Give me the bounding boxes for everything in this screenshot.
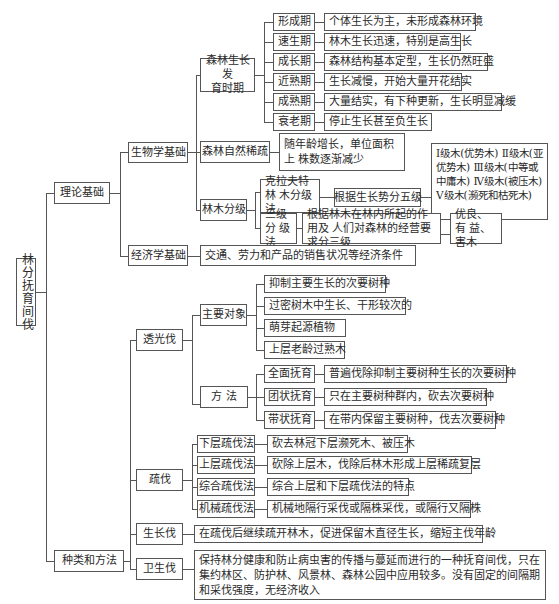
thinning-4: 机械疏伐法 xyxy=(197,500,255,518)
stage-4-desc: 生长减慢，开始大量开花结实 xyxy=(324,73,462,91)
stage-3: 成长期 xyxy=(273,53,315,71)
node-increment-felling: 生长伐 xyxy=(136,523,183,545)
connector xyxy=(315,62,324,63)
connector xyxy=(192,404,200,405)
node-economics-basis: 经济学基础 xyxy=(128,245,188,266)
connector xyxy=(256,306,264,307)
node-types-methods: 种类和方法 xyxy=(54,550,124,572)
connector xyxy=(46,561,54,562)
connector xyxy=(315,374,324,375)
connector xyxy=(247,315,256,316)
stage-4: 近熟期 xyxy=(273,73,315,91)
method-3: 带状抚育 xyxy=(264,411,315,429)
sanitation-felling-desc: 保持林分健康和防止病虫害的传播与蔓延而进行的一种抚育间伐，只在集约林区、防护林、… xyxy=(194,550,546,600)
growth-periods-label: 森林生长发育时期 xyxy=(203,54,252,96)
connector xyxy=(264,62,273,63)
connector xyxy=(255,192,256,228)
connector xyxy=(256,284,257,350)
stage-5: 成熟期 xyxy=(273,93,315,111)
connector xyxy=(320,197,334,198)
connector xyxy=(248,397,256,398)
root-node: 林分抚育间伐 xyxy=(16,258,36,326)
stage-1: 形成期 xyxy=(273,13,315,31)
thinning-3: 综合疏伐法 xyxy=(197,478,255,496)
stage-1-desc: 个体生长为主，未形成森林环境 xyxy=(324,13,476,31)
connector xyxy=(264,22,273,23)
stage-6-desc: 停止生长甚至负生长 xyxy=(324,113,432,131)
thinning-2: 上层疏伐法 xyxy=(197,456,255,474)
connector xyxy=(192,315,200,316)
target-3: 萌芽起源植物 xyxy=(264,319,346,337)
connector xyxy=(188,152,196,153)
node-release-cutting: 透光伐 xyxy=(136,329,183,351)
thinning-1-desc: 砍去林冠下层濒死木、被压木 xyxy=(267,435,408,453)
connector xyxy=(192,315,193,404)
node-self-thinning: 森林自然稀疏 xyxy=(200,141,270,163)
connector xyxy=(188,256,200,257)
three-class-method: 三级分 级法 xyxy=(260,213,297,244)
node-growth-periods: 森林生长发育时期 xyxy=(200,58,255,92)
connector xyxy=(255,487,267,488)
method-3-desc: 在带内保留主要树种，伐去次要树种 xyxy=(324,411,496,429)
target-2: 过密树木中生长、干形较次的 xyxy=(264,297,406,315)
method-1: 全面抚育 xyxy=(264,365,315,383)
method-2: 团状抚育 xyxy=(264,388,315,406)
thinning-4-desc: 机械地隔行采伐或隔株采伐，或隔行又隔株 xyxy=(267,500,471,518)
connector xyxy=(315,420,324,421)
connector xyxy=(256,284,264,285)
node-biology-basis: 生物学基础 xyxy=(128,142,188,163)
connector xyxy=(315,122,324,123)
connector xyxy=(255,75,264,76)
self-thinning-desc: 随年龄增长，单位面积上 株数逐渐减少 xyxy=(279,133,405,171)
connector xyxy=(270,152,279,153)
three-class-grades: 优良、有 益、害木 xyxy=(450,213,502,244)
three-class-basis: 根据林木在林内所起的作用及 人们对森林的经营要求分三级 xyxy=(302,213,441,244)
connector xyxy=(264,42,273,43)
connector xyxy=(183,569,194,570)
stage-3-desc: 森林结构基本定型，生长仍然旺盛 xyxy=(324,53,488,71)
connector xyxy=(264,122,273,123)
connector xyxy=(256,420,264,421)
node-theory-basis: 理论基础 xyxy=(54,182,110,204)
connector xyxy=(255,465,267,466)
thinning-2-desc: 砍除上层木，伐除后林木形成上层稀疏复层 xyxy=(267,456,472,474)
connector xyxy=(120,152,128,153)
connector xyxy=(315,397,324,398)
connector xyxy=(183,340,192,341)
connector xyxy=(264,22,265,122)
stage-6: 衰老期 xyxy=(273,113,315,131)
node-methods: 方 法 xyxy=(200,386,248,408)
connector xyxy=(315,102,324,103)
method-2-desc: 只在主要树种群内，砍去次要树种 xyxy=(324,388,487,406)
economics-desc: 交通、劳力和产品的销售状况等经济条件 xyxy=(200,245,416,266)
node-sanitation-felling: 卫生伐 xyxy=(136,558,183,580)
connector xyxy=(264,82,273,83)
method-1-desc: 普遍伐除抑制主要树种生长的次要树种 xyxy=(324,365,507,383)
connector xyxy=(110,193,120,194)
connector xyxy=(247,210,255,211)
connector xyxy=(441,234,450,235)
kraft-basis: 根据生长势分五级 xyxy=(334,188,421,207)
connector xyxy=(120,152,121,256)
connector xyxy=(196,75,197,210)
target-4: 上层老龄过熟木 xyxy=(264,341,345,359)
connector xyxy=(264,102,273,103)
increment-felling-desc: 在疏伐后继续疏开林木，促进保留木直径生长，缩短主伐年龄 xyxy=(194,525,483,543)
stage-5-desc: 大量结实，有下种更新，生长明显减缓 xyxy=(324,93,502,111)
thinning-3-desc: 综合上层和下层疏伐法的特点 xyxy=(267,478,409,496)
connector xyxy=(36,292,46,293)
connector xyxy=(315,82,324,83)
connector xyxy=(256,397,264,398)
thinning-1: 下层疏伐法 xyxy=(197,435,255,453)
node-thinning: 疏伐 xyxy=(136,469,183,491)
connector xyxy=(255,509,267,510)
target-1: 抑制主要生长的次要树种 xyxy=(264,275,386,293)
stage-2-desc: 林木生长迅速，特别是高生长 xyxy=(324,33,461,51)
connector xyxy=(421,197,431,198)
connector xyxy=(256,350,264,351)
connector xyxy=(192,444,193,509)
connector xyxy=(315,22,324,23)
connector xyxy=(46,193,54,194)
stage-2: 速生期 xyxy=(273,33,315,51)
connector xyxy=(256,374,264,375)
